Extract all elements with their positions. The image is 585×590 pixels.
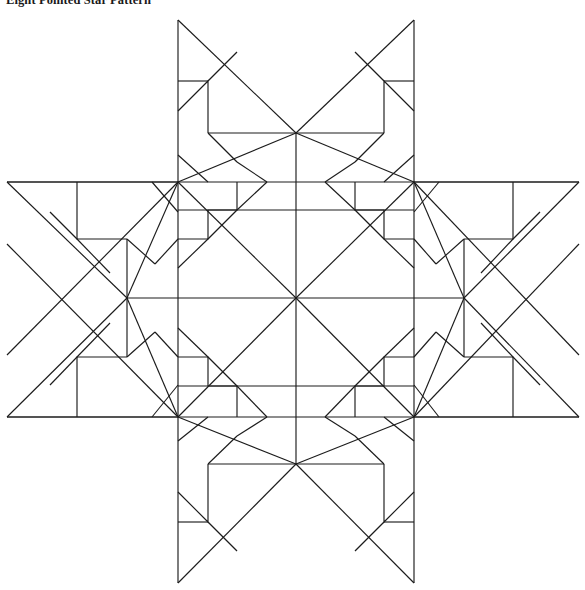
star-block-top — [178, 20, 414, 182]
corner-junction-rays — [7, 182, 579, 417]
page-canvas: Eight Pointed Star Pattern — [0, 0, 585, 590]
star-block-right — [414, 182, 579, 417]
star-block-bottom — [178, 417, 414, 583]
star-block-left — [7, 182, 178, 417]
eight-pointed-star-pattern-figure — [0, 0, 585, 590]
star-block-center — [178, 182, 414, 417]
